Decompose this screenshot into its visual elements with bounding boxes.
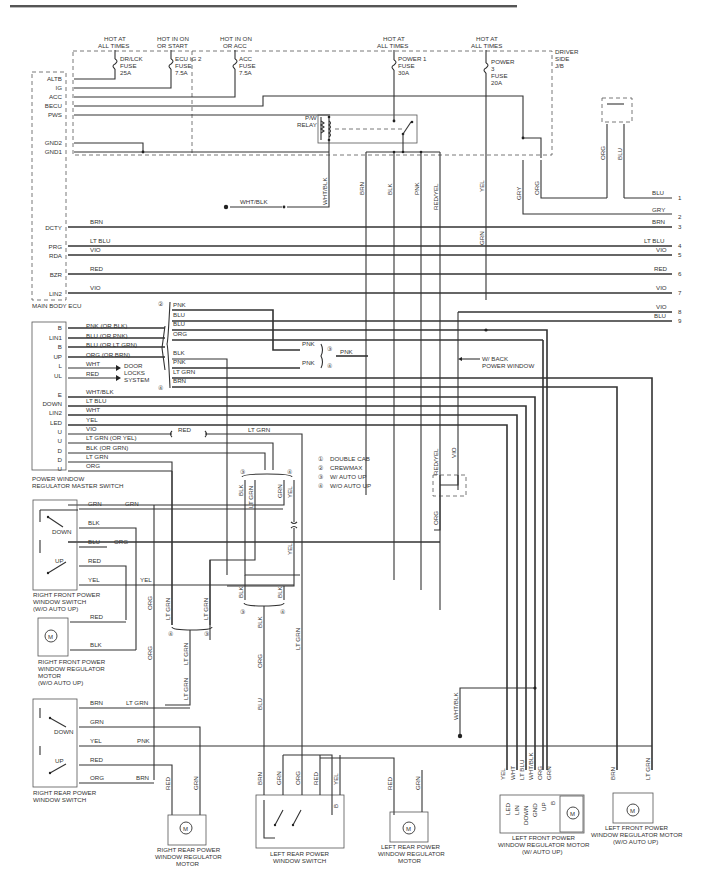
svg-text:HOT AT: HOT AT [476, 35, 498, 42]
svg-text:BLU: BLU [88, 538, 100, 545]
svg-text:FUSE: FUSE [398, 62, 415, 69]
svg-text:3: 3 [678, 223, 682, 230]
svg-text:VIO: VIO [86, 425, 97, 432]
svg-text:4: 4 [678, 242, 682, 249]
svg-text:RIGHT REAR POWER: RIGHT REAR POWER [157, 846, 221, 853]
svg-text:BLK: BLK [90, 641, 103, 648]
svg-text:GND2: GND2 [45, 139, 63, 146]
svg-text:YEL: YEL [332, 773, 339, 785]
svg-text:WHT: WHT [86, 406, 100, 413]
ecu-pin-labels: ALTB IG ACC BECU PWS GND2 GND1 DCTY PRG … [45, 75, 63, 297]
svg-text:WINDOW REGULATOR: WINDOW REGULATOR [155, 853, 222, 860]
svg-text:(W/O AUTO UP): (W/O AUTO UP) [33, 605, 78, 612]
svg-text:BLK: BLK [276, 585, 283, 598]
svg-text:GRN: GRN [545, 766, 552, 780]
svg-text:④: ④ [318, 482, 323, 489]
svg-text:LT GRN: LT GRN [126, 699, 148, 706]
svg-text:POWER: POWER [491, 58, 515, 65]
svg-text:ORG: ORG [599, 146, 606, 160]
svg-text:ORG: ORG [536, 766, 543, 780]
svg-text:RED: RED [386, 776, 393, 790]
svg-text:PNK: PNK [173, 358, 187, 365]
jb-label: DRIVER [555, 48, 579, 55]
svg-text:B: B [58, 324, 62, 331]
svg-text:POWER 1: POWER 1 [398, 55, 427, 62]
svg-text:LT GRN: LT GRN [182, 643, 189, 665]
svg-text:UP: UP [540, 802, 547, 811]
svg-text:PNK: PNK [340, 348, 354, 355]
svg-text:LT GRN: LT GRN [86, 453, 108, 460]
svg-text:MOTOR: MOTOR [398, 857, 421, 864]
svg-text:L: L [59, 362, 63, 369]
option-group: ② ④ PNK BLU BLU ORG BLK PNK LT GRN BRN P… [158, 301, 652, 770]
svg-text:②: ② [318, 464, 323, 471]
header-rule [10, 5, 517, 7]
svg-text:M: M [406, 826, 411, 832]
svg-text:VIO: VIO [656, 303, 667, 310]
svg-text:BLK (OR GRN): BLK (OR GRN) [86, 444, 128, 451]
svg-text:WHT/BLK: WHT/BLK [527, 752, 534, 780]
svg-text:ORG: ORG [146, 646, 153, 660]
svg-text:LT GRN: LT GRN [164, 598, 171, 620]
svg-text:YEL: YEL [140, 576, 152, 583]
svg-text:LEFT REAR POWER: LEFT REAR POWER [270, 850, 330, 857]
svg-text:B: B [549, 801, 556, 805]
svg-text:DOWN: DOWN [54, 728, 74, 735]
svg-text:5: 5 [678, 251, 682, 258]
svg-text:GRY: GRY [515, 187, 522, 200]
svg-text:GRN: GRN [192, 776, 199, 790]
svg-text:RIGHT REAR POWER: RIGHT REAR POWER [33, 789, 97, 796]
svg-text:GRN: GRN [275, 771, 282, 785]
svg-text:7.5A: 7.5A [239, 69, 253, 76]
svg-text:VIO: VIO [656, 284, 667, 291]
svg-text:WINDOW REGULATOR MOTOR: WINDOW REGULATOR MOTOR [498, 841, 590, 848]
svg-text:LT GRN: LT GRN [202, 598, 209, 620]
svg-text:B: B [332, 804, 339, 808]
svg-text:U: U [58, 437, 62, 444]
svg-text:W/O AUTO UP: W/O AUTO UP [330, 482, 371, 489]
svg-text:OR ACC: OR ACC [223, 42, 247, 49]
svg-text:WINDOW REGULATOR MOTOR: WINDOW REGULATOR MOTOR [591, 831, 683, 838]
svg-text:ALL TIMES: ALL TIMES [377, 42, 408, 49]
svg-text:WINDOW REGULATOR: WINDOW REGULATOR [378, 850, 445, 857]
svg-text:GRN: GRN [478, 231, 485, 245]
svg-text:FUSE: FUSE [491, 72, 508, 79]
svg-text:D: D [58, 447, 63, 454]
svg-text:LIN1: LIN1 [49, 334, 63, 341]
svg-text:LED: LED [504, 802, 511, 815]
svg-text:WINDOW SWITCH: WINDOW SWITCH [33, 598, 86, 605]
svg-text:ALL TIMES: ALL TIMES [98, 42, 129, 49]
svg-text:WHT: WHT [86, 360, 100, 367]
svg-text:RED: RED [312, 771, 319, 785]
svg-text:SYSTEM: SYSTEM [124, 376, 149, 383]
svg-text:YEL: YEL [478, 180, 485, 192]
svg-text:HOT AT: HOT AT [104, 35, 126, 42]
svg-text:RED: RED [90, 613, 104, 620]
svg-text:HOT IN ON: HOT IN ON [157, 35, 189, 42]
svg-text:BRN: BRN [256, 772, 263, 785]
svg-text:E: E [58, 391, 62, 398]
svg-text:M: M [630, 808, 635, 814]
svg-text:BZR: BZR [50, 271, 63, 278]
svg-text:POWER WINDOW: POWER WINDOW [32, 475, 84, 482]
svg-text:RED/YEL: RED/YEL [432, 448, 439, 475]
svg-text:1: 1 [678, 194, 682, 201]
svg-text:RELAY: RELAY [297, 121, 317, 128]
fuse-power-1: HOT AT ALL TIMES POWER 1 FUSE 30A [377, 35, 427, 122]
svg-text:PNK: PNK [413, 181, 420, 195]
svg-text:WHT/BLK: WHT/BLK [240, 198, 268, 205]
svg-text:W/ AUTO UP: W/ AUTO UP [330, 473, 366, 480]
svg-text:YEL: YEL [286, 543, 293, 555]
svg-text:BLK: BLK [237, 483, 244, 496]
svg-text:SIDE: SIDE [555, 55, 569, 62]
back-window-note: W/ BACK POWER WINDOW RED/YEL VIO ORG [432, 312, 534, 530]
svg-text:LT BLU: LT BLU [90, 237, 110, 244]
svg-text:③: ③ [204, 631, 209, 637]
svg-text:BLU: BLU [616, 148, 623, 160]
svg-text:BLK: BLK [386, 182, 393, 195]
svg-text:DCTY: DCTY [45, 224, 62, 231]
svg-text:HOT IN ON: HOT IN ON [220, 35, 252, 42]
svg-text:8: 8 [678, 308, 682, 315]
svg-text:LOCKS: LOCKS [124, 369, 145, 376]
svg-text:④: ④ [280, 609, 285, 615]
